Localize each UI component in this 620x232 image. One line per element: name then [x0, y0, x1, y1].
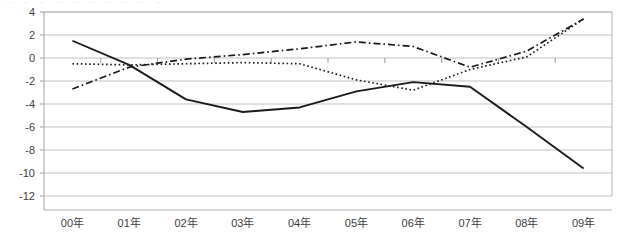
data-series-group: [72, 19, 583, 169]
y-axis-label: -4: [25, 98, 35, 110]
x-axis-label: 01年: [118, 216, 141, 229]
x-axis-label: 07年: [458, 216, 481, 229]
line-chart-plot: 420-2-4-6-8-10-12 00年01年02年03年04年05年06年0…: [0, 0, 620, 232]
y-axis-label: -10: [19, 167, 35, 179]
x-axis-labels-group: 00年01年02年03年04年05年06年07年08年09年: [61, 216, 595, 229]
x-axis-label: 09年: [572, 216, 595, 229]
y-axis-label: 4: [29, 6, 35, 18]
y-axis-label: 2: [29, 29, 35, 41]
y-axis-labels-group: 420-2-4-6-8-10-12: [19, 6, 35, 202]
y-axis-label: 0: [29, 52, 35, 64]
chart-container: ‥ ‥ ‥ ‥ ‥ ‥ ‥ ‥ ‥ ‥ 420-2-4-6-8-10-12 00…: [0, 0, 620, 232]
y-axis-label: -8: [25, 144, 35, 156]
x-axis-label: 06年: [402, 216, 425, 229]
series-line-series-dotted: [72, 19, 583, 90]
x-axis-label: 04年: [288, 216, 311, 229]
gridlines-group: [44, 12, 612, 196]
x-axis-label: 05年: [345, 216, 368, 229]
x-axis-label: 02年: [174, 216, 197, 229]
series-line-series-dash-dot: [72, 19, 583, 89]
y-axis-label: -2: [25, 75, 35, 87]
x-axis-label: 00年: [61, 216, 84, 229]
y-axis-label: -6: [25, 121, 35, 133]
plot-area-border: [44, 12, 612, 210]
x-axis-label: 08年: [515, 216, 538, 229]
y-axis-label: -12: [19, 190, 35, 202]
x-axis-label: 03年: [231, 216, 254, 229]
